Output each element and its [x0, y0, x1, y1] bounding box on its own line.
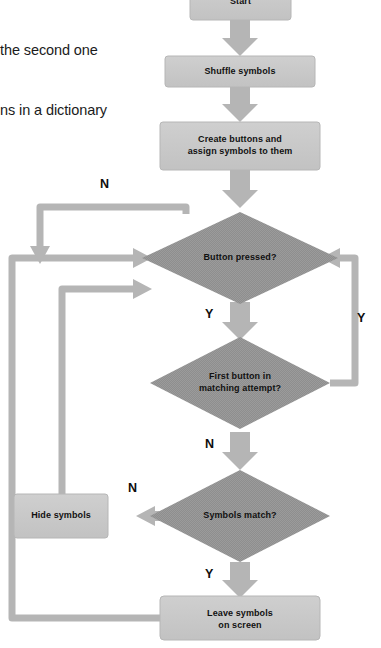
branch-label-first-no: N — [205, 438, 214, 451]
edge-first-yes-loop — [321, 248, 355, 383]
branch-label-match-no: N — [128, 482, 137, 495]
node-shuffle[interactable] — [165, 56, 315, 87]
arrow-first-to-match — [222, 432, 258, 470]
branch-label-button-yes: Y — [205, 308, 213, 321]
flowchart-graphics — [0, 0, 381, 648]
node-first-button[interactable] — [150, 337, 330, 429]
branch-label-button-no: N — [100, 178, 109, 191]
arrow-button-to-first — [222, 302, 258, 340]
node-button-pressed[interactable] — [142, 212, 338, 304]
edge-leave-to-button — [12, 248, 160, 618]
node-hide-symbols[interactable] — [14, 494, 108, 538]
arrow-start-to-shuffle — [222, 20, 258, 56]
node-start[interactable] — [190, 0, 291, 20]
edge-hide-to-button — [62, 279, 152, 500]
node-symbols-match[interactable] — [150, 470, 330, 562]
branch-label-first-yes: Y — [357, 312, 365, 325]
node-create[interactable] — [160, 122, 320, 170]
arrow-create-to-button — [222, 170, 258, 208]
flowchart-canvas: the second one ns in a dictionary — [0, 0, 381, 648]
branch-label-match-yes: Y — [205, 568, 213, 581]
arrow-match-to-leave — [222, 562, 258, 598]
arrow-shuffle-to-create — [222, 87, 258, 122]
node-leave-symbols[interactable] — [160, 596, 320, 640]
